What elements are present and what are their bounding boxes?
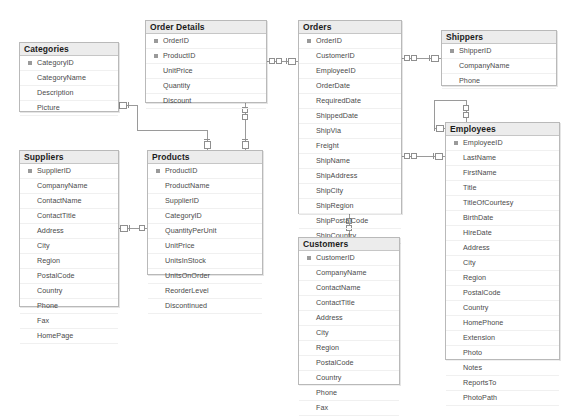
field-row[interactable]: ProductName [148,179,262,194]
field-row[interactable]: TitleOfCourtesy [446,196,559,211]
field-row[interactable]: Country [20,284,118,299]
field-name: SupplierID [37,167,71,174]
field-row[interactable]: ContactName [299,281,399,296]
key-glyph-empty [307,376,311,380]
field-row[interactable]: SupplierID [148,194,262,209]
field-row[interactable]: CompanyName [20,179,118,194]
field-row[interactable]: Freight [299,139,401,154]
field-row[interactable]: LastName [446,151,559,166]
field-row[interactable]: PhotoPath [446,391,559,406]
field-row[interactable]: CustomerID [299,49,401,64]
entity-header-employees[interactable]: Employees [446,123,559,136]
field-row[interactable]: Discount [146,94,266,109]
field-row[interactable]: FirstName [446,166,559,181]
field-row[interactable]: City [446,256,559,271]
field-row[interactable]: HomePage [20,329,118,344]
field-row[interactable]: Country [299,371,399,386]
field-row[interactable]: UnitPrice [146,64,266,79]
field-row[interactable]: Phone [442,74,556,89]
card-many-orders-employees [404,153,417,159]
field-row[interactable]: Region [299,341,399,356]
field-bullet-spacer [302,49,316,63]
field-row[interactable]: CategoryID [20,56,118,71]
field-row[interactable]: ContactTitle [20,209,118,224]
field-row[interactable]: Extension [446,331,559,346]
entity-products[interactable]: ProductsProductIDProductNameSupplierIDCa… [147,150,263,275]
field-row[interactable]: ShippedDate [299,109,401,124]
field-row[interactable]: ReorderLevel [148,284,262,299]
field-row[interactable]: Description [20,86,118,101]
field-row[interactable]: ReportsTo [446,376,559,391]
field-row[interactable]: Title [446,181,559,196]
entity-categories[interactable]: CategoriesCategoryIDCategoryNameDescript… [19,42,119,112]
entity-header-suppliers[interactable]: Suppliers [20,151,118,164]
field-row[interactable]: CompanyName [299,266,399,281]
field-row[interactable]: CategoryID [148,209,262,224]
field-row[interactable]: CompanyName [442,59,556,74]
entity-suppliers[interactable]: SuppliersSupplierIDCompanyNameContactNam… [19,150,119,307]
field-row[interactable]: ShipAddress [299,169,401,184]
field-row[interactable]: UnitPrice [148,239,262,254]
field-row[interactable]: Notes [446,361,559,376]
entity-header-customers[interactable]: Customers [299,238,399,251]
field-row[interactable]: EmployeeID [299,64,401,79]
field-row[interactable]: OrderID [146,34,266,49]
field-row[interactable]: Phone [20,299,118,314]
field-row[interactable]: Fax [20,314,118,329]
field-row[interactable]: Address [299,311,399,326]
entity-header-shippers[interactable]: Shippers [442,31,556,44]
field-row[interactable]: ContactTitle [299,296,399,311]
entity-header-categories[interactable]: Categories [20,43,118,56]
field-row[interactable]: SupplierID [20,164,118,179]
field-row[interactable]: Discontinued [148,299,262,314]
entity-header-products[interactable]: Products [148,151,262,164]
field-row[interactable]: HomePhone [446,316,559,331]
field-row[interactable]: HireDate [446,226,559,241]
field-row[interactable]: Country [446,301,559,316]
field-row[interactable]: PostalCode [446,286,559,301]
field-row[interactable]: Phone [299,386,399,401]
entity-orders[interactable]: OrdersOrderIDCustomerIDEmployeeIDOrderDa… [298,20,402,214]
key-glyph-empty [28,91,32,95]
field-row[interactable]: Address [446,241,559,256]
field-name: LastName [463,154,496,161]
field-row[interactable]: Region [20,254,118,269]
field-row[interactable]: ShipRegion [299,199,401,214]
field-row[interactable]: Photo [446,346,559,361]
primary-key-icon [151,164,165,178]
field-row[interactable]: PostalCode [20,269,118,284]
field-row[interactable]: ShipCity [299,184,401,199]
entity-header-order_details[interactable]: Order Details [146,21,266,34]
field-row[interactable]: Fax [299,401,399,416]
field-row[interactable]: QuantityPerUnit [148,224,262,239]
field-row[interactable]: ShipName [299,154,401,169]
field-row[interactable]: CategoryName [20,71,118,86]
field-row[interactable]: ShipVia [299,124,401,139]
field-row[interactable]: RequiredDate [299,94,401,109]
field-row[interactable]: UnitsOnOrder [148,269,262,284]
field-row[interactable]: Address [20,224,118,239]
entity-header-orders[interactable]: Orders [299,21,401,34]
field-row[interactable]: ShipperID [442,44,556,59]
entity-shippers[interactable]: ShippersShipperIDCompanyNamePhone [441,30,557,86]
field-row[interactable]: PostalCode [299,356,399,371]
field-row[interactable]: ShipPostalCode [299,214,401,229]
field-row[interactable]: UnitsInStock [148,254,262,269]
field-row[interactable]: Picture [20,101,118,116]
field-row[interactable]: OrderID [299,34,401,49]
field-row[interactable]: ContactName [20,194,118,209]
field-row[interactable]: City [299,326,399,341]
field-row[interactable]: ProductID [146,49,266,64]
entity-employees[interactable]: EmployeesEmployeeIDLastNameFirstNameTitl… [445,122,560,360]
field-row[interactable]: City [20,239,118,254]
field-row[interactable]: CustomerID [299,251,399,266]
field-name: UnitPrice [165,242,195,249]
field-row[interactable]: EmployeeID [446,136,559,151]
field-row[interactable]: Region [446,271,559,286]
field-row[interactable]: ProductID [148,164,262,179]
entity-customers[interactable]: CustomersCustomerIDCompanyNameContactNam… [298,237,400,385]
entity-order_details[interactable]: Order DetailsOrderIDProductIDUnitPriceQu… [145,20,267,103]
field-row[interactable]: OrderDate [299,79,401,94]
field-row[interactable]: Quantity [146,79,266,94]
field-row[interactable]: BirthDate [446,211,559,226]
